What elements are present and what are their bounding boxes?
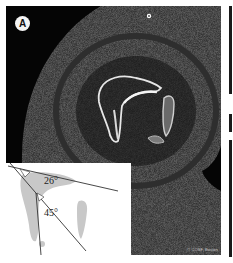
ct-scan-panel: A 26° 45° © COSF, Boston xyxy=(6,6,221,255)
copyright-credit: © COSF, Boston xyxy=(187,247,218,252)
angle-label-45: 45° xyxy=(44,207,58,218)
angle-diagram-inset: 26° 45° xyxy=(6,163,131,255)
angle-diagram xyxy=(6,163,131,255)
adjacent-panel-edge xyxy=(228,0,233,263)
humerus-silhouette xyxy=(77,200,87,239)
panel-label-badge: A xyxy=(15,16,30,31)
angle-label-26: 26° xyxy=(44,175,58,186)
